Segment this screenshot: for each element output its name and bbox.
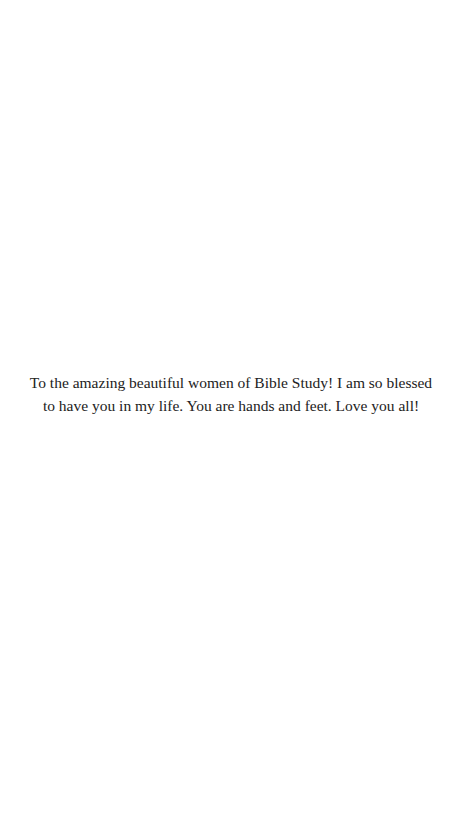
book-page: To the amazing beautiful women of Bible … — [0, 0, 462, 814]
dedication-line-1: To the amazing beautiful women of Bible … — [0, 371, 462, 394]
dedication-line-2: to have you in my life. You are hands an… — [0, 394, 462, 417]
dedication-text: To the amazing beautiful women of Bible … — [0, 371, 462, 417]
